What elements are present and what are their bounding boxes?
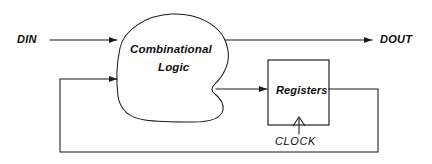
diagram-canvas: [0, 0, 432, 164]
combinational-logic-label-line2: Logic: [158, 62, 189, 74]
block-diagram: DIN DOUT Combinational Logic Registers C…: [0, 0, 432, 164]
combinational-logic-label-line1: Combinational: [130, 44, 212, 56]
clock-label: CLOCK: [275, 136, 316, 147]
feedback-arrowhead: [109, 76, 117, 82]
dout-arrowhead: [364, 37, 372, 43]
din-arrowhead: [109, 37, 117, 43]
logic-to-registers-arrowhead: [259, 86, 267, 92]
din-label: DIN: [17, 34, 37, 45]
registers-label: Registers: [276, 85, 327, 96]
dout-label: DOUT: [380, 34, 412, 45]
